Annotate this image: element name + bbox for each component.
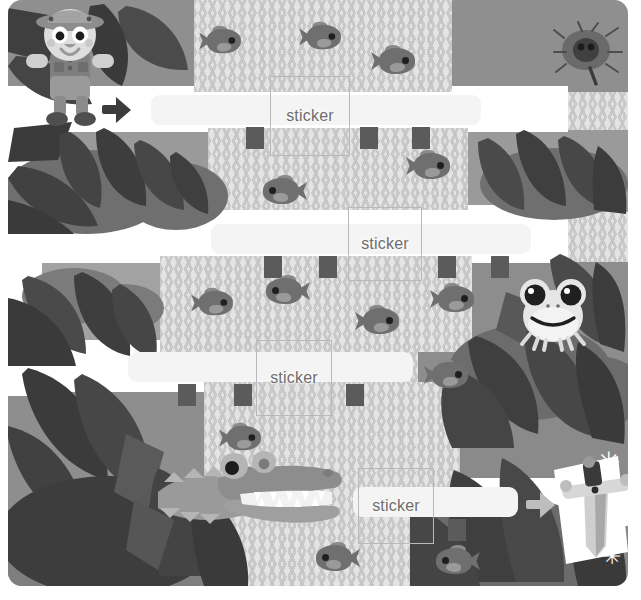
- arrow-right-icon: [102, 97, 132, 123]
- fish-icon: [191, 291, 233, 316]
- sticker-slot[interactable]: sticker: [358, 468, 434, 544]
- fish-icon: [406, 153, 450, 179]
- bridge-post: [264, 256, 282, 278]
- fish-icon: [199, 29, 241, 54]
- bridge-post: [412, 127, 430, 149]
- frame-left: [0, 0, 8, 600]
- fish-icon: [266, 278, 310, 304]
- beetle-bug: [552, 22, 624, 86]
- sticker-slot[interactable]: sticker: [348, 207, 422, 281]
- sticker-slot[interactable]: sticker: [270, 76, 350, 156]
- bridge-post: [346, 384, 364, 406]
- sticker-slot-label: sticker: [361, 235, 409, 253]
- sticker-slot-label: sticker: [286, 107, 334, 125]
- bridge-post: [448, 519, 466, 541]
- arrow-right-icon: [526, 492, 556, 518]
- bridge-post: [360, 127, 378, 149]
- fish-icon: [299, 25, 341, 50]
- fish-icon: [436, 548, 480, 574]
- frame-bottom: [0, 586, 641, 600]
- bridge-post: [234, 384, 252, 406]
- fish-icon: [430, 286, 474, 312]
- treasure-sword: [554, 460, 628, 566]
- bridge-post: [178, 384, 196, 406]
- bridge-post: [438, 256, 456, 278]
- fish-icon: [371, 48, 415, 74]
- tree-frog: [510, 272, 596, 350]
- foliage-mid-right: [448, 122, 628, 218]
- foliage-mid-left: [8, 122, 238, 234]
- activity-sheet: stickerstickerstickersticker ✳✳✳: [0, 0, 641, 600]
- artboard: stickerstickerstickersticker ✳✳✳: [8, 0, 628, 586]
- fish-icon: [424, 362, 468, 388]
- sticker-slot[interactable]: sticker: [256, 340, 332, 416]
- crocodile: [158, 438, 358, 554]
- sticker-slot-label: sticker: [372, 497, 420, 515]
- frame-right: [628, 0, 641, 600]
- bridge-post: [246, 127, 264, 149]
- fish-icon: [355, 308, 399, 334]
- fish-icon: [263, 178, 307, 204]
- bridge-post: [491, 256, 509, 278]
- sticker-slot-label: sticker: [270, 369, 318, 387]
- bridge-post: [319, 256, 337, 278]
